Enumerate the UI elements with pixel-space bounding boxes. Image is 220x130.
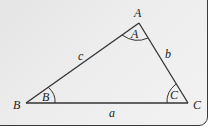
angle-label-b: B: [42, 90, 50, 104]
vertex-label-a: A: [133, 6, 142, 20]
side-b: [139, 23, 188, 103]
vertex-label-b: B: [13, 98, 21, 112]
vertex-label-c: C: [193, 98, 202, 112]
angle-label-a: A: [130, 27, 139, 41]
side-label-b: b: [165, 47, 171, 61]
side-label-a: a: [109, 106, 115, 120]
side-label-c: c: [78, 49, 84, 63]
angle-label-c: C: [170, 88, 179, 102]
triangle-diagram: A B C a b c A B C: [0, 0, 220, 130]
